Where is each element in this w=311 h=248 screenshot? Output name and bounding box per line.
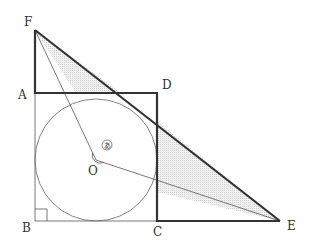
label-E: E — [287, 219, 296, 233]
label-F: F — [24, 15, 32, 29]
label-C: C — [153, 225, 162, 239]
label-O: O — [88, 164, 98, 178]
right-angle-mark — [35, 209, 47, 221]
label-B: B — [22, 221, 31, 235]
label-D: D — [162, 78, 172, 92]
angle-label: あ — [104, 142, 111, 150]
geometry-diagram: あ F A D O B C E — [0, 0, 311, 248]
label-A: A — [17, 88, 27, 102]
segment-OF — [35, 30, 96, 160]
